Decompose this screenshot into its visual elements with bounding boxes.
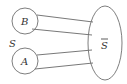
node-b-label: B xyxy=(20,16,28,27)
cut-diagram: B A S S xyxy=(0,0,127,84)
edges xyxy=(32,15,93,69)
edge-a-to-sbar-1 xyxy=(37,50,92,55)
edge-b-to-sbar-1 xyxy=(37,15,93,22)
node-sbar-label: S xyxy=(101,40,108,51)
set-s-label: S xyxy=(9,38,16,49)
node-a-label: A xyxy=(20,56,28,67)
node-b: B xyxy=(12,8,38,34)
edge-b-to-sbar-2 xyxy=(32,29,92,35)
node-sbar: S xyxy=(88,6,122,80)
edge-a-to-sbar-2 xyxy=(35,63,93,69)
node-a: A xyxy=(12,48,38,74)
